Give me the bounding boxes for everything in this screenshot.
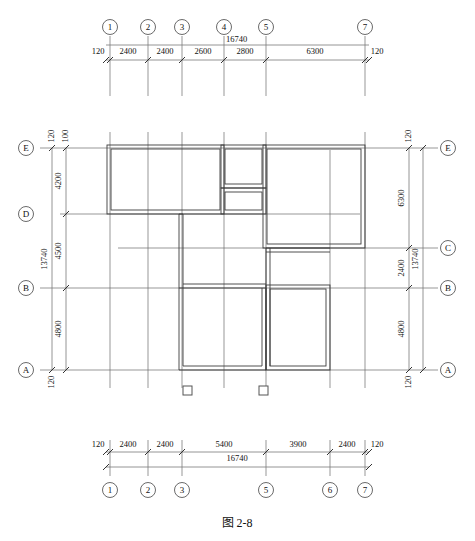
wall-room-small-upper-inner: [225, 149, 262, 184]
grid-bubble-1-bottom-label: 1: [108, 485, 113, 495]
bottom-grid-bubbles: 1 2 3 5 6: [103, 483, 373, 498]
grid-bubble-7-top-label: 7: [363, 22, 368, 32]
right-dim-offset-120-bottom: 120: [403, 376, 413, 389]
left-dim-offset-120-top: 120: [46, 130, 56, 143]
grid-bubble-5-top-label: 5: [264, 22, 269, 32]
right-dim-seg-1: 2400: [396, 260, 406, 277]
grid-bubble-A-right-label: A: [445, 365, 452, 375]
grid-bubble-3-bottom[interactable]: 3: [175, 483, 190, 498]
left-dim-total: 13740: [39, 248, 49, 269]
wall-c-line-stub: [266, 248, 330, 252]
left-dim-offset-100-top: 100: [60, 130, 70, 143]
right-dim-seg-2: 4800: [396, 321, 406, 338]
grid-bubble-C-right-label: C: [445, 243, 451, 253]
wall-room-bottom-right: [266, 285, 330, 370]
bottom-dimension-block: 120 2400 2400 5400 3900 2400 120 16740 1…: [92, 439, 384, 498]
top-dim-seg-0: 120: [92, 46, 105, 56]
wall-room-bottom-center-inner: [183, 284, 262, 366]
right-dim-seg-0: 6300: [396, 190, 406, 207]
left-dim-offset-120-bottom: 120: [46, 376, 56, 389]
grid-bubble-4-top-label: 4: [222, 22, 227, 32]
grid-bubble-A-right[interactable]: A: [441, 363, 456, 378]
right-dimension-block: 6300 2400 4800 13740 120 120 E C B: [396, 130, 456, 389]
top-dim-seg-2: 2400: [157, 46, 174, 56]
grid-bubble-A-left-label: A: [23, 365, 30, 375]
top-dim-seg-5: 6300: [307, 46, 324, 56]
grid-bubble-7-top[interactable]: 7: [358, 20, 373, 35]
wall-room-top-left-inner: [111, 149, 220, 210]
right-grid-bubbles: E C B A: [441, 141, 456, 378]
top-dim-seg-6: 120: [371, 46, 384, 56]
top-grid-bubbles: 1 2 3 4 5: [103, 20, 373, 35]
grid-bubble-D-left[interactable]: D: [19, 207, 34, 222]
left-dim-seg-1: 4500: [53, 243, 63, 260]
grid-bubble-B-right[interactable]: B: [441, 281, 456, 296]
grid-bubble-1-top[interactable]: 1: [103, 20, 118, 35]
bottom-dim-seg-0: 120: [92, 439, 105, 449]
grid-bubble-A-left[interactable]: A: [19, 363, 34, 378]
left-dim-seg-0: 4200: [53, 173, 63, 190]
bottom-dim-seg-4: 3900: [290, 439, 307, 449]
grid-bubble-E-left[interactable]: E: [19, 141, 34, 156]
grid-bubble-5-bottom-label: 5: [264, 485, 269, 495]
grid-bubble-5-bottom[interactable]: 5: [259, 483, 274, 498]
bottom-dim-seg-2: 2400: [157, 439, 174, 449]
grid-bubble-E-right[interactable]: E: [441, 141, 456, 156]
grid-bubble-B-left-label: B: [23, 283, 29, 293]
grid-bubble-D-left-label: D: [23, 209, 30, 219]
grid-bubble-6-bottom[interactable]: 6: [323, 483, 338, 498]
floor-plan-drawing: 120 2400 2400 2600 2800 6300 120 16740 1…: [0, 0, 475, 541]
wall-middle-l-inner: [183, 214, 266, 284]
wall-right-spine: [266, 248, 270, 370]
grid-bubble-B-left[interactable]: B: [19, 281, 34, 296]
wall-room-small-lower: [221, 188, 266, 214]
grid-bubble-2-bottom[interactable]: 2: [141, 483, 156, 498]
grid-bubble-5-top[interactable]: 5: [259, 20, 274, 35]
wall-room-bottom-right-inner: [270, 289, 326, 366]
bottom-dim-seg-3: 5400: [216, 439, 233, 449]
grid-bubble-1-bottom[interactable]: 1: [103, 483, 118, 498]
wall-room-top-right: [263, 145, 365, 248]
plan-grid: [40, 132, 438, 388]
right-dim-offset-120-top: 120: [403, 130, 413, 143]
plan-walls: [107, 145, 365, 370]
column-symbols: [183, 386, 268, 395]
wall-middle-l-outer: [179, 214, 266, 288]
figure-container: 120 2400 2400 2600 2800 6300 120 16740 1…: [0, 0, 475, 541]
grid-bubble-3-top[interactable]: 3: [175, 20, 190, 35]
bottom-dim-total: 16740: [226, 453, 247, 463]
figure-caption: 图 2-8: [222, 516, 253, 530]
grid-bubble-C-right[interactable]: C: [441, 241, 456, 256]
grid-bubble-1-top-label: 1: [108, 22, 113, 32]
column-symbol-left[interactable]: [183, 386, 192, 395]
bottom-dim-seg-6: 120: [371, 439, 384, 449]
top-dim-seg-3: 2600: [195, 46, 212, 56]
wall-room-small-upper-outer: [221, 145, 266, 188]
wall-room-bottom-right-outer: [266, 285, 330, 370]
wall-room-bottom-center-outer: [179, 288, 266, 370]
grid-bubble-E-left-label: E: [23, 143, 29, 153]
wall-room-small-upper: [221, 145, 266, 188]
grid-bubble-4-top[interactable]: 4: [217, 20, 232, 35]
grid-bubble-E-right-label: E: [445, 143, 451, 153]
left-grid-bubbles: E D B A: [19, 141, 34, 378]
top-dim-seg-1: 2400: [120, 46, 137, 56]
grid-bubble-B-right-label: B: [445, 283, 451, 293]
bottom-dim-seg-1: 2400: [120, 439, 137, 449]
wall-room-small-lower-inner: [225, 192, 262, 210]
top-dimension-block: 120 2400 2400 2600 2800 6300 120 16740 1…: [92, 20, 384, 97]
wall-room-top-left-outer: [107, 145, 224, 214]
top-dim-seg-4: 2800: [237, 46, 254, 56]
left-dim-seg-2: 4800: [53, 321, 63, 338]
column-symbol-right[interactable]: [259, 386, 268, 395]
grid-bubble-7-bottom[interactable]: 7: [358, 483, 373, 498]
wall-middle-l-shape: [179, 214, 266, 288]
grid-bubble-3-top-label: 3: [180, 22, 185, 32]
grid-bubble-7-bottom-label: 7: [363, 485, 368, 495]
left-dimension-block: 13740 4200 4500 4800 120 100 120 E D: [19, 130, 70, 389]
wall-room-top-right-outer: [263, 145, 365, 248]
grid-bubble-6-bottom-label: 6: [328, 485, 333, 495]
bottom-dim-seg-5: 2400: [339, 439, 356, 449]
wall-room-bottom-center: [179, 284, 266, 370]
grid-bubble-2-top[interactable]: 2: [141, 20, 156, 35]
